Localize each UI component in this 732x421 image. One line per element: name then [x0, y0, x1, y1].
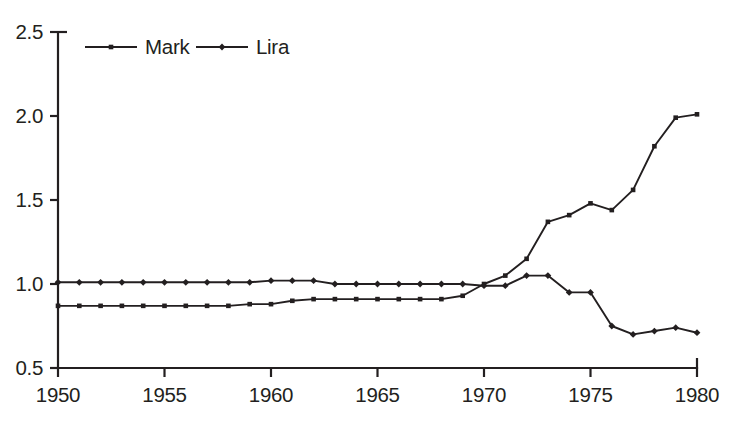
- x-tick-label-1970: 1970: [462, 383, 506, 406]
- datapoint-lira-1967: [417, 281, 424, 288]
- datapoint-lira-1963: [332, 281, 339, 288]
- datapoint-mark-1967: [418, 297, 423, 302]
- datapoint-lira-1954: [140, 279, 147, 286]
- x-tick-label-1965: 1965: [355, 383, 399, 406]
- datapoint-lira-1951: [76, 279, 83, 286]
- datapoint-lira-1969: [459, 281, 466, 288]
- x-tick-label-1950: 1950: [36, 383, 80, 406]
- datapoint-mark-1973: [546, 220, 551, 225]
- series-mark: [56, 112, 700, 308]
- legend-item-mark[interactable]: Mark: [85, 35, 190, 58]
- datapoint-mark-1965: [375, 297, 380, 302]
- datapoint-mark-1968: [439, 297, 444, 302]
- datapoint-mark-1957: [205, 304, 210, 309]
- datapoint-mark-1978: [652, 144, 657, 149]
- legend-label-lira: Lira: [256, 35, 290, 58]
- datapoint-lira-1955: [161, 279, 168, 286]
- datapoint-mark-1964: [354, 297, 359, 302]
- datapoint-mark-1962: [311, 297, 316, 302]
- datapoint-mark-1977: [631, 188, 636, 193]
- datapoint-mark-1966: [397, 297, 402, 302]
- datapoint-lira-1972: [523, 272, 530, 279]
- datapoint-mark-1980: [695, 112, 700, 117]
- legend-label-mark: Mark: [145, 35, 190, 58]
- datapoint-lira-1968: [438, 281, 445, 288]
- datapoint-mark-1951: [77, 304, 82, 309]
- datapoint-mark-1955: [162, 304, 167, 309]
- datapoint-lira-1964: [353, 281, 360, 288]
- datapoint-mark-1976: [610, 208, 615, 213]
- datapoint-lira-1980: [694, 329, 701, 336]
- datapoint-lira-1952: [97, 279, 104, 286]
- datapoint-lira-1959: [246, 279, 253, 286]
- legend-marker-lira: [219, 44, 226, 51]
- datapoint-lira-1971: [502, 282, 509, 289]
- line-chart: 0.51.01.52.02.5 195019551960196519701975…: [0, 0, 732, 421]
- x-tick-label-1975: 1975: [568, 383, 612, 406]
- datapoint-mark-1971: [503, 273, 508, 278]
- datapoint-mark-1975: [588, 201, 593, 206]
- datapoint-mark-1960: [269, 302, 274, 307]
- datapoint-lira-1978: [651, 328, 658, 335]
- y-axis-tick-labels: 0.51.01.52.02.5: [15, 20, 43, 379]
- x-axis-tick-labels: 1950195519601965197019751980: [36, 383, 719, 406]
- chart-axes: [58, 32, 697, 368]
- series-line-mark: [58, 114, 697, 306]
- legend-marker-mark: [109, 45, 114, 50]
- datapoint-mark-1969: [460, 293, 465, 298]
- datapoint-lira-1957: [204, 279, 211, 286]
- axis-ticks: [50, 32, 697, 377]
- y-tick-label-1.5: 1.5: [15, 188, 43, 211]
- datapoint-lira-1965: [374, 281, 381, 288]
- axis-frame: [58, 32, 697, 368]
- datapoint-mark-1956: [184, 304, 189, 309]
- y-tick-label-2.5: 2.5: [15, 20, 43, 43]
- x-tick-label-1980: 1980: [675, 383, 719, 406]
- datapoint-mark-1961: [290, 299, 295, 304]
- chart-page: 0.51.01.52.02.5 195019551960196519701975…: [0, 0, 732, 421]
- datapoint-mark-1959: [247, 302, 252, 307]
- datapoint-lira-1966: [395, 281, 402, 288]
- data-series: [55, 112, 701, 338]
- datapoint-lira-1960: [268, 277, 275, 284]
- datapoint-lira-1977: [630, 331, 637, 338]
- x-tick-label-1955: 1955: [142, 383, 186, 406]
- datapoint-mark-1953: [120, 304, 125, 309]
- datapoint-mark-1954: [141, 304, 146, 309]
- legend-item-lira[interactable]: Lira: [196, 35, 290, 58]
- datapoint-lira-1979: [672, 324, 679, 331]
- datapoint-mark-1958: [226, 304, 231, 309]
- datapoint-mark-1963: [333, 297, 338, 302]
- datapoint-mark-1974: [567, 213, 572, 218]
- x-tick-label-1960: 1960: [249, 383, 293, 406]
- datapoint-lira-1962: [310, 277, 317, 284]
- datapoint-mark-1950: [56, 304, 61, 309]
- y-tick-label-2.0: 2.0: [15, 104, 43, 127]
- datapoint-mark-1952: [98, 304, 103, 309]
- y-tick-label-1.0: 1.0: [15, 272, 43, 295]
- datapoint-lira-1953: [119, 279, 126, 286]
- datapoint-mark-1979: [673, 115, 678, 120]
- chart-legend: MarkLira: [85, 35, 290, 58]
- datapoint-lira-1961: [289, 277, 296, 284]
- y-tick-label-0.5: 0.5: [15, 356, 43, 379]
- datapoint-lira-1956: [182, 279, 189, 286]
- datapoint-lira-1958: [225, 279, 232, 286]
- datapoint-mark-1972: [524, 257, 529, 262]
